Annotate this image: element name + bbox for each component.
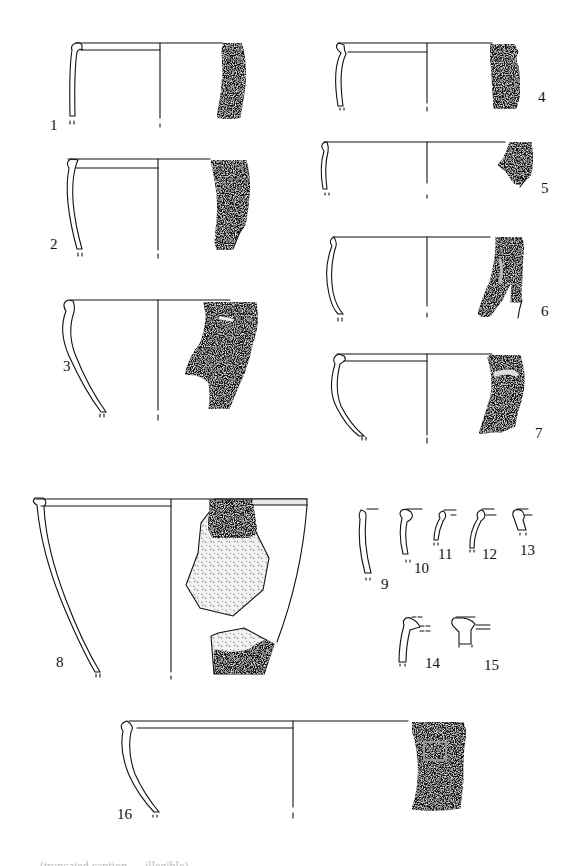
wall-profile	[70, 43, 82, 116]
figure-8	[33, 498, 307, 679]
rim-profile	[470, 510, 485, 548]
figure-label-13: 13	[520, 543, 535, 558]
figure-label-11: 11	[438, 547, 452, 562]
pottery-plate	[0, 0, 572, 866]
figure-13	[513, 509, 532, 535]
figure-label-3: 3	[63, 359, 71, 374]
wall-profile	[63, 300, 106, 412]
rim-profile	[434, 511, 446, 540]
figure-label-2: 2	[50, 237, 58, 252]
figure-2	[67, 159, 249, 258]
rim-profile	[359, 510, 371, 573]
plate-caption: (truncated caption — illegible)	[40, 859, 540, 866]
figure-label-6: 6	[541, 304, 549, 319]
sherd-exterior	[217, 43, 246, 119]
sherd-upper-dark	[208, 500, 257, 538]
rim-profile	[513, 510, 526, 530]
figure-label-10: 10	[414, 561, 429, 576]
figure-4	[336, 43, 520, 111]
figure-label-14: 14	[425, 656, 440, 671]
rim-profile	[399, 618, 420, 662]
figure-label-12: 12	[482, 547, 497, 562]
wall-profile	[327, 237, 343, 314]
figure-label-15: 15	[484, 658, 499, 673]
figure-7	[331, 354, 524, 443]
figure-9	[359, 509, 378, 580]
figure-16	[121, 721, 466, 818]
figure-label-5: 5	[541, 181, 549, 196]
figure-label-9: 9	[381, 577, 389, 592]
figure-11	[434, 510, 456, 545]
wall-profile	[331, 354, 364, 436]
sherd-exterior	[490, 44, 520, 109]
figure-label-7: 7	[535, 426, 543, 441]
outer-wall-curve	[277, 505, 307, 642]
sherd-exterior	[412, 722, 466, 810]
figure-10	[400, 509, 422, 562]
wall-profile	[336, 43, 346, 106]
sherd-exterior	[479, 355, 524, 434]
wall-profile	[121, 721, 159, 812]
figure-5	[321, 142, 532, 198]
wall-profile	[67, 159, 82, 249]
rim-profile	[452, 618, 475, 644]
figure-1	[70, 43, 246, 127]
figure-6	[327, 237, 524, 321]
sherd-exterior	[211, 160, 249, 250]
figure-3	[63, 300, 258, 420]
wall-profile	[321, 142, 328, 189]
sherd-exterior	[498, 142, 533, 185]
figure-label-4: 4	[538, 90, 546, 105]
break-ticks	[70, 121, 74, 124]
figure-label-16: 16	[117, 807, 132, 822]
figure-15	[452, 617, 490, 647]
figure-label-1: 1	[50, 118, 58, 133]
wall-profile	[33, 498, 100, 672]
rim-profile	[400, 509, 412, 554]
figure-label-8: 8	[56, 655, 64, 670]
